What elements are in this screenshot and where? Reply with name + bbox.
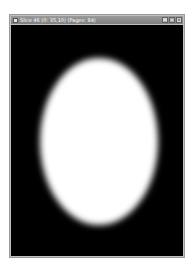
maximize-button[interactable]: □: [169, 17, 175, 23]
minimize-button[interactable]: _: [162, 17, 168, 23]
image-canvas[interactable]: [11, 25, 183, 256]
window-title: Slice 46 (0: 35,10) (Pages: 84): [20, 16, 96, 24]
window-controls: _ □ ×: [162, 17, 182, 23]
title-bar[interactable]: Slice 46 (0: 35,10) (Pages: 84) _ □ ×: [11, 16, 183, 24]
white-ellipse: [40, 58, 158, 225]
close-button[interactable]: ×: [176, 17, 182, 23]
image-window: Slice 46 (0: 35,10) (Pages: 84) _ □ ×: [9, 14, 185, 258]
app-icon: [13, 18, 18, 23]
